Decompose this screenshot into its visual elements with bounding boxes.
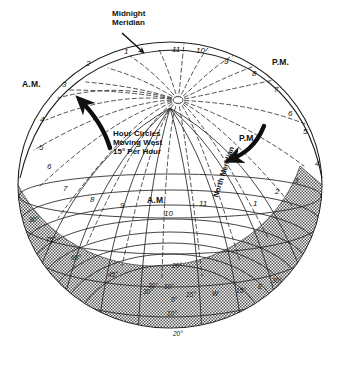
hour-label: 5 xyxy=(39,144,43,153)
hour-label: 8 xyxy=(252,70,256,79)
latitude-label: 60° xyxy=(71,254,81,261)
hour-label: 6 xyxy=(47,163,51,172)
hour-label: 4 xyxy=(315,160,319,169)
longitude-label: W xyxy=(212,290,218,297)
latitude-label: 20° xyxy=(172,262,182,269)
period-label: A.M. xyxy=(22,80,41,90)
longitude-label: 30° xyxy=(272,277,282,284)
latitude-label: 10° xyxy=(167,310,177,317)
period-label: P.M. xyxy=(272,58,289,68)
hour-label: 2 xyxy=(275,188,279,197)
hour-label: 8 xyxy=(90,196,94,205)
hour-label: 9 xyxy=(120,202,124,211)
hour-label: 10 xyxy=(164,210,173,219)
period-label: P.M. xyxy=(239,134,256,144)
callout-midnight-meridian: Midnight Meridian xyxy=(112,10,145,28)
hour-label: 3 xyxy=(294,177,298,186)
latitude-label: 0° xyxy=(171,296,177,303)
hour-label: 4 xyxy=(40,116,44,125)
hour-label: 7 xyxy=(63,185,67,194)
latitude-label: 45° xyxy=(108,271,118,278)
hour-label: 1 xyxy=(253,200,257,209)
note-line-3: 15° Per Hour xyxy=(113,148,162,157)
hour-label: 10 xyxy=(196,47,205,56)
hour-label: 7 xyxy=(274,86,278,95)
celestial-pole xyxy=(173,97,183,104)
hour-label: 9 xyxy=(224,58,228,67)
latitude-label: 75° xyxy=(46,236,56,243)
callout-line-2: Meridian xyxy=(112,19,145,28)
hour-label: 2 xyxy=(86,60,90,69)
latitude-label: 10° xyxy=(164,283,174,290)
hour-label: 11 xyxy=(172,46,180,55)
hour-circles-note: Hour Circles Moving West 15° Per Hour xyxy=(113,130,162,157)
longitude-label: 15° xyxy=(236,287,246,294)
hour-label: 3 xyxy=(62,81,66,90)
latitude-label: 20° xyxy=(173,330,183,337)
longitude-label: 30° xyxy=(143,288,153,295)
longitude-label: E xyxy=(258,283,262,290)
hour-label: 5 xyxy=(303,128,307,137)
longitude-label: 15° xyxy=(186,291,196,298)
latitude-label: 90° xyxy=(29,216,39,223)
hour-label: 11 xyxy=(199,200,207,209)
hour-label: 6 xyxy=(288,110,292,119)
period-label: A.M. xyxy=(147,196,166,206)
hour-label: 1 xyxy=(124,48,128,57)
